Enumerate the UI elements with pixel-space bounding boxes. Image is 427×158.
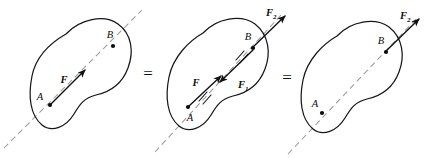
point-A-label-3: A — [311, 98, 319, 109]
equals-sign-1: = — [143, 64, 153, 83]
point-B-label-3: B — [378, 35, 385, 46]
point-B-label-1: B — [107, 29, 114, 40]
cancel-slash-F-2b — [203, 95, 211, 104]
point-A-label-1: A — [36, 91, 44, 102]
force-vector-F1-2 — [220, 50, 253, 82]
line-of-action-2 — [155, 14, 282, 152]
force-label-F2-2: F 2 — [265, 7, 277, 21]
force-label-F2-base-3: F — [399, 10, 407, 21]
force-label-F1-base-2: F — [237, 79, 245, 90]
point-B-dot-3 — [384, 50, 388, 54]
line-of-action-1 — [4, 10, 142, 148]
point-A-dot-3 — [320, 111, 324, 115]
panel-2: F F 1 F 2 A B — [155, 7, 285, 152]
force-label-F2-base-2: F — [265, 7, 273, 18]
force-label-F2-sub-2: 2 — [272, 13, 277, 21]
rigid-body-outline-2 — [167, 18, 268, 129]
panel-1: A B F — [4, 10, 142, 148]
panel-3: F 2 A B — [288, 10, 419, 154]
point-A-dot-2 — [186, 105, 190, 109]
force-label-F2-3: F 2 — [399, 10, 411, 24]
force-label-F1-2: F 1 — [237, 79, 249, 93]
force-label-F-1: F — [59, 74, 67, 85]
force-label-F2-sub-3: 2 — [406, 16, 411, 24]
cancel-slash-F1-2a — [236, 51, 244, 60]
point-B-dot-1 — [111, 44, 115, 48]
point-A-dot-1 — [48, 103, 52, 107]
point-A-label-2: A — [186, 112, 194, 123]
point-B-label-2: B — [245, 31, 252, 42]
line-of-action-3 — [288, 16, 419, 154]
equals-sign-2: = — [282, 68, 292, 87]
rigid-body-outline-3 — [301, 21, 402, 132]
point-B-dot-2 — [251, 46, 255, 50]
force-vector-F2-2 — [252, 16, 285, 48]
transmissibility-figure: A B F = F F 1 F 2 A B = — [0, 0, 427, 158]
force-vector-F-1 — [51, 70, 85, 104]
force-label-F1-sub-2: 1 — [245, 85, 249, 93]
force-label-F-2: F — [191, 77, 199, 88]
